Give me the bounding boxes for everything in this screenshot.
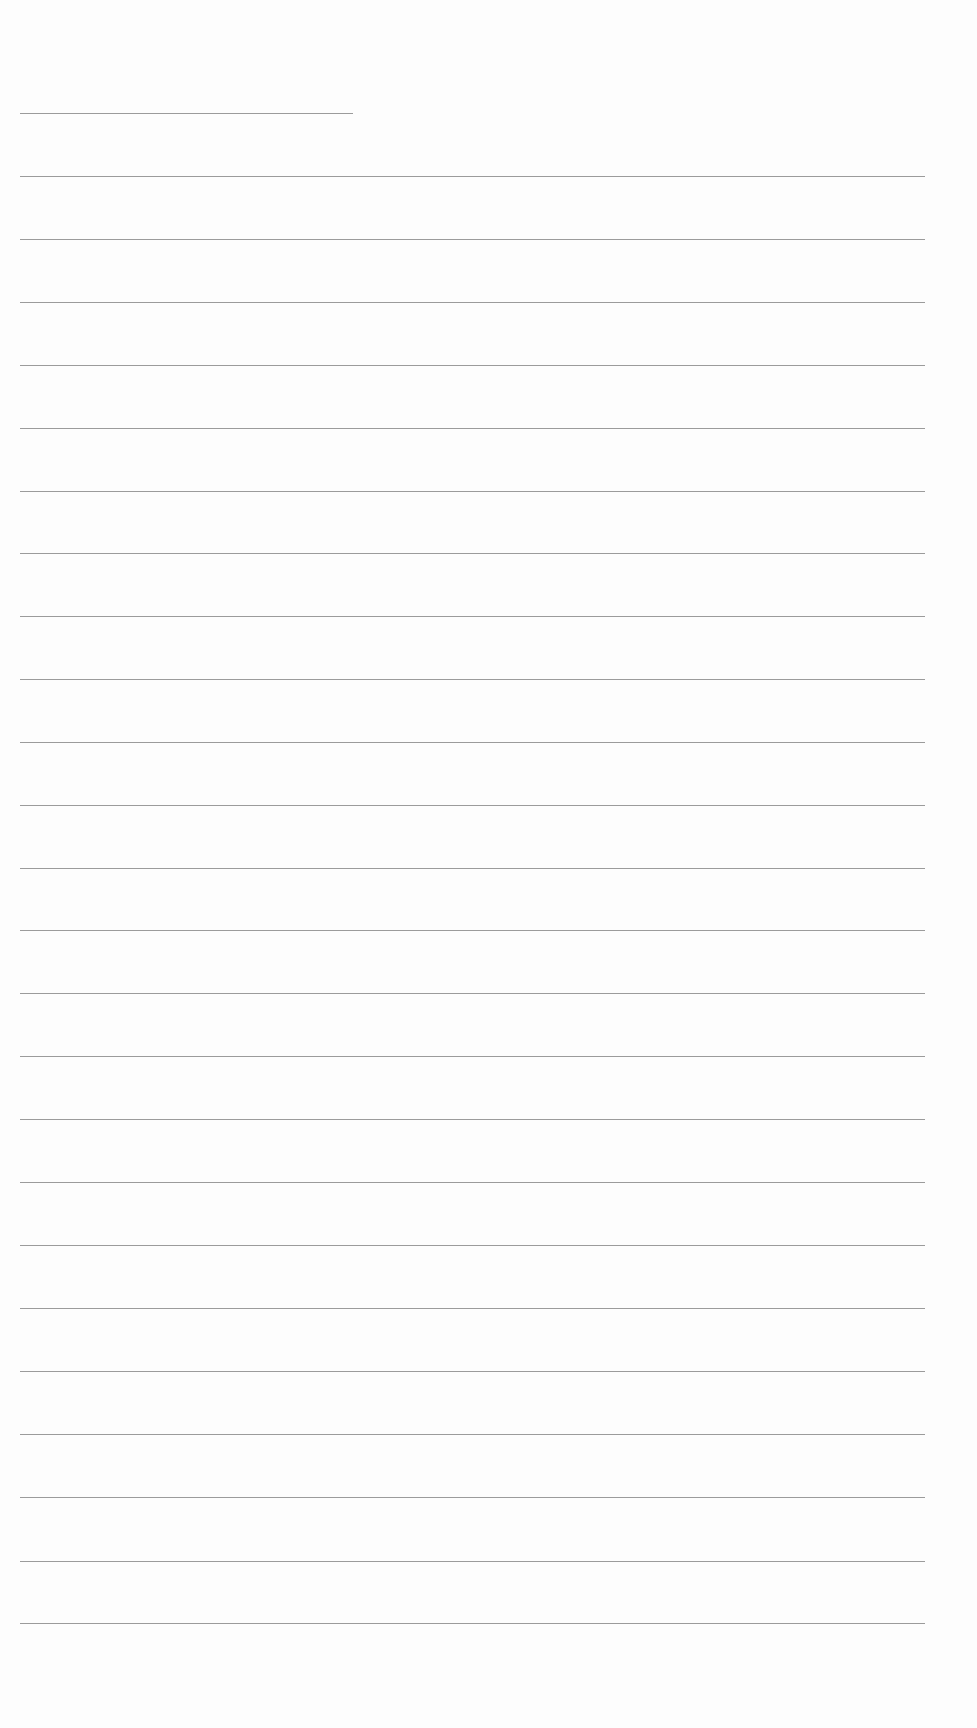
ruled-line <box>20 1623 925 1624</box>
ruled-line <box>20 239 925 240</box>
ruled-line <box>20 365 925 366</box>
ruled-line <box>20 679 925 680</box>
ruled-line <box>20 1056 925 1057</box>
header-line <box>20 113 353 114</box>
ruled-line <box>20 1497 925 1498</box>
ruled-line <box>20 1245 925 1246</box>
ruled-line <box>20 1182 925 1183</box>
lined-paper-sheet <box>0 0 977 1728</box>
ruled-line <box>20 868 925 869</box>
ruled-line <box>20 930 925 931</box>
ruled-line <box>20 1561 925 1562</box>
ruled-line <box>20 428 925 429</box>
ruled-line <box>20 742 925 743</box>
ruled-line <box>20 993 925 994</box>
ruled-line <box>20 1119 925 1120</box>
ruled-line <box>20 616 925 617</box>
ruled-line <box>20 805 925 806</box>
ruled-line <box>20 491 925 492</box>
ruled-line <box>20 1371 925 1372</box>
ruled-line <box>20 1308 925 1309</box>
ruled-line <box>20 302 925 303</box>
ruled-line <box>20 1434 925 1435</box>
ruled-line <box>20 176 925 177</box>
ruled-line <box>20 553 925 554</box>
